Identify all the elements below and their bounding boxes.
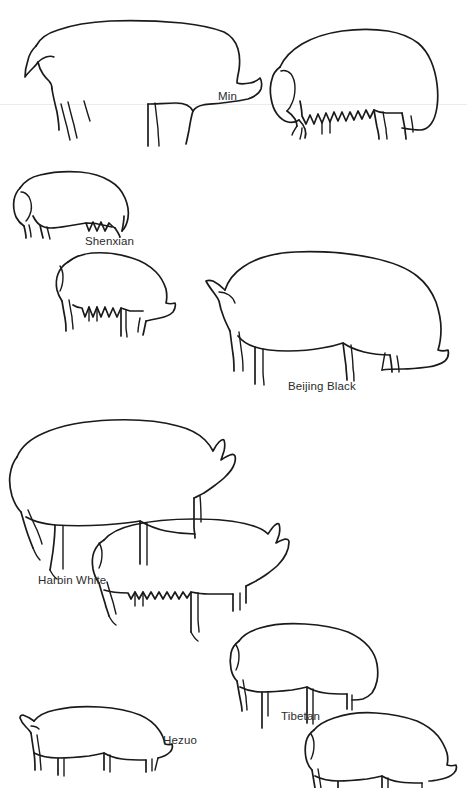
breed-label-min: Min bbox=[218, 91, 237, 103]
breed-label-beijing-black: Beijing Black bbox=[288, 381, 356, 393]
pig-outline-shenxian-a bbox=[14, 172, 129, 239]
pig-outline-harbin-white-sow bbox=[92, 519, 289, 641]
pig-outline-tibetan-b bbox=[305, 713, 456, 788]
pig-breed-figure: Min Shenxian Beijing Black Harbin White … bbox=[0, 0, 467, 788]
breed-label-shenxian: Shenxian bbox=[85, 236, 134, 248]
pig-outline-min-sow bbox=[270, 30, 437, 140]
pig-outline-shenxian-b bbox=[56, 253, 175, 337]
breed-label-tibetan: Tibetan bbox=[281, 711, 320, 723]
pig-outline-drawings bbox=[0, 0, 467, 788]
pig-outline-hezuo bbox=[20, 707, 172, 776]
pig-outline-harbin-white-boar bbox=[10, 420, 236, 579]
breed-label-hezuo: Hezuo bbox=[163, 735, 197, 747]
breed-label-harbin-white: Harbin White bbox=[38, 575, 106, 587]
pig-outline-beijing-black bbox=[206, 252, 448, 385]
pig-outline-min-boar bbox=[25, 21, 262, 146]
